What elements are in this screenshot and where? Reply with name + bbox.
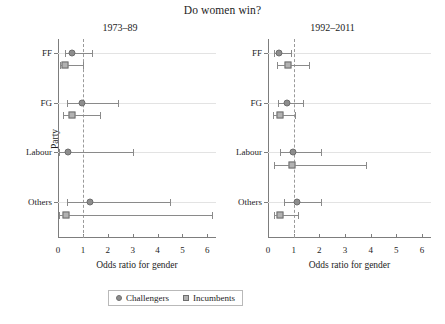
panel-right-x-axis-line (268, 237, 431, 238)
x-tick-label: 1 (291, 245, 296, 255)
challengers-marker-icon (116, 295, 122, 301)
x-tick (268, 234, 269, 238)
ci-cap-low (60, 62, 61, 69)
panel-left-x-axis-title: Odds ratio for gender (58, 260, 216, 270)
figure-title: Do women win? (0, 4, 445, 16)
ci-cap-high (303, 100, 304, 107)
ci-cap-high (118, 100, 119, 107)
y-tick-label-fg: FG (40, 98, 52, 108)
confidence-interval (277, 65, 309, 66)
data-point-incumbents-ff (285, 62, 292, 69)
x-tick (422, 234, 423, 238)
y-tick (264, 202, 268, 203)
x-tick (158, 234, 159, 238)
data-point-incumbents-fg (277, 112, 284, 119)
y-tick (264, 103, 268, 104)
ci-cap-low (280, 149, 281, 156)
data-point-challengers-others (293, 199, 300, 206)
x-tick-label: 2 (317, 245, 322, 255)
panel-left: 1973–89 Party Odds ratio for gender 0123… (20, 22, 220, 280)
y-tick (54, 202, 58, 203)
x-tick-label: 3 (343, 245, 348, 255)
panel-left-plot: Party Odds ratio for gender 0123456FFFGL… (58, 39, 216, 238)
x-tick-label: 3 (130, 245, 135, 255)
x-tick-label: 0 (266, 245, 271, 255)
x-tick (371, 234, 372, 238)
data-point-incumbents-others (62, 211, 69, 218)
ci-cap-low (278, 100, 279, 107)
x-tick-label: 5 (394, 245, 399, 255)
y-tick-label-labour: Labour (26, 147, 52, 157)
y-tick-label-fg: FG (250, 98, 262, 108)
x-tick (58, 234, 59, 238)
x-tick-label: 4 (368, 245, 373, 255)
ci-cap-low (273, 112, 274, 119)
x-tick-label: 0 (56, 245, 61, 255)
ci-cap-low (59, 149, 60, 156)
x-tick (207, 234, 208, 238)
panel-right-title: 1992–2011 (230, 22, 435, 33)
incumbents-marker-icon (183, 295, 189, 301)
x-tick (319, 234, 320, 238)
data-point-challengers-others (86, 199, 93, 206)
y-tick (54, 152, 58, 153)
panel-right-plot: Odds ratio for gender 0123456FFFGLabourO… (268, 39, 431, 238)
x-tick (345, 234, 346, 238)
data-point-incumbents-others (277, 211, 284, 218)
ci-cap-high (83, 62, 84, 69)
confidence-interval (59, 215, 212, 216)
ci-cap-high (298, 212, 299, 219)
x-tick-label: 1 (81, 245, 86, 255)
panel-left-title: 1973–89 (20, 22, 220, 33)
confidence-interval (67, 202, 171, 203)
ci-cap-low (274, 162, 275, 169)
data-point-challengers-labour (290, 149, 297, 156)
panel-left-y-axis-line (58, 39, 59, 238)
confidence-interval (280, 152, 321, 153)
ci-cap-high (133, 149, 134, 156)
ci-cap-low (65, 50, 66, 57)
ci-cap-high (170, 199, 171, 206)
ci-cap-low (284, 199, 285, 206)
y-tick-label-ff: FF (42, 48, 52, 58)
panel-left-x-axis-line (58, 237, 216, 238)
x-tick-label: 5 (180, 245, 185, 255)
ci-cap-high (321, 199, 322, 206)
x-tick (133, 234, 134, 238)
confidence-interval (67, 103, 118, 104)
ci-cap-high (212, 212, 213, 219)
panel-right-y-axis-line (268, 39, 269, 238)
ci-cap-low (67, 199, 68, 206)
x-tick-label: 4 (155, 245, 160, 255)
y-tick-label-others: Others (238, 197, 262, 207)
legend-item-incumbents: Incumbents (183, 293, 235, 303)
data-point-incumbents-ff (62, 62, 69, 69)
data-point-challengers-fg (78, 99, 85, 106)
y-tick (264, 152, 268, 153)
legend-label-challengers: Challengers (126, 293, 169, 303)
ci-cap-high (366, 162, 367, 169)
data-point-challengers-ff (69, 49, 76, 56)
legend-label-incumbents: Incumbents (193, 293, 235, 303)
grid-line (268, 53, 431, 54)
figure-container: Do women win? 1973–89 Party Odds ratio f… (0, 0, 445, 324)
ci-cap-low (277, 62, 278, 69)
y-tick (54, 103, 58, 104)
ci-cap-low (63, 112, 64, 119)
panel-right: 1992–2011 Odds ratio for gender 0123456F… (230, 22, 435, 280)
y-tick (54, 53, 58, 54)
ci-cap-low (59, 212, 60, 219)
data-point-challengers-labour (64, 149, 71, 156)
ci-cap-low (274, 212, 275, 219)
y-tick-label-others: Others (28, 197, 52, 207)
x-tick-label: 6 (205, 245, 210, 255)
data-point-challengers-ff (275, 49, 282, 56)
x-tick (108, 234, 109, 238)
ci-cap-high (321, 149, 322, 156)
ci-cap-high (309, 62, 310, 69)
data-point-incumbents-fg (69, 112, 76, 119)
ci-cap-high (295, 112, 296, 119)
panel-right-x-axis-title: Odds ratio for gender (268, 260, 431, 270)
x-tick-label: 6 (420, 245, 425, 255)
x-tick (182, 234, 183, 238)
